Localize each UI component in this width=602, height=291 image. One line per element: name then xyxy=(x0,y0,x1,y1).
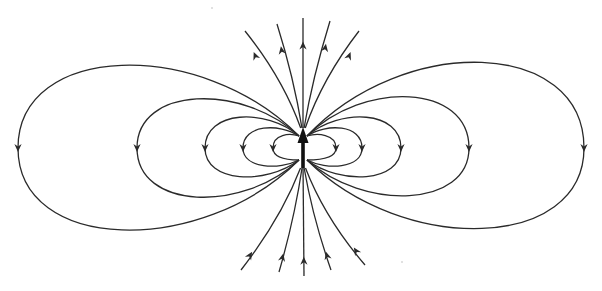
arrow-up-icon xyxy=(344,51,354,61)
field-loop-left-2 xyxy=(205,117,299,177)
field-loop-left-4 xyxy=(273,135,299,160)
field-lines-canvas xyxy=(0,0,602,291)
speck xyxy=(211,7,213,9)
field-loop-right-9 xyxy=(307,135,336,160)
speck xyxy=(401,261,403,263)
field-line-top xyxy=(277,24,302,128)
dipole-arrow-icon xyxy=(298,127,309,168)
dipole-field-diagram xyxy=(0,0,602,291)
field-loop-right-5 xyxy=(307,62,584,228)
field-loop-right-7 xyxy=(307,117,401,177)
field-loop-left-0 xyxy=(18,65,299,230)
field-line-top xyxy=(304,21,330,128)
arrow-up-icon xyxy=(250,51,260,61)
